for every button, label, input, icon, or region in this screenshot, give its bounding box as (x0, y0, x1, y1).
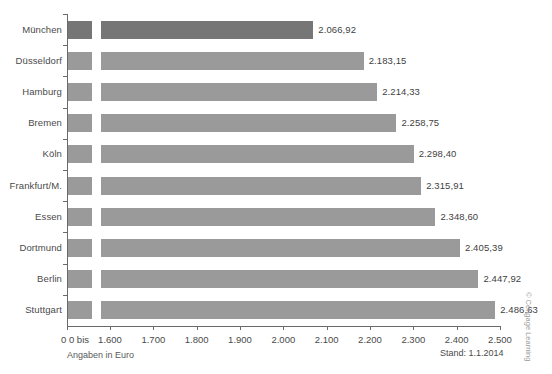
bar-value-label: 2.447,92 (483, 270, 521, 288)
axis-break-mark (92, 82, 101, 102)
bar-value-label: 2.066,92 (318, 21, 356, 39)
bar (68, 270, 478, 288)
x-axis-tick (110, 326, 111, 330)
bar-value-label: 2.214,33 (382, 83, 420, 101)
x-axis-tick (283, 326, 284, 330)
bar (68, 239, 460, 257)
x-axis-tick-origin (67, 326, 68, 330)
bar (68, 52, 364, 70)
x-axis-tick (240, 326, 241, 330)
axis-break-mark (92, 300, 101, 320)
bar-chart: MünchenDüsseldorfHamburgBremenKölnFrankf… (0, 0, 552, 374)
category-label: Hamburg (0, 87, 62, 97)
category-label: Düsseldorf (0, 56, 62, 66)
bar (68, 208, 435, 226)
axis-break-mark (92, 269, 101, 289)
axis-break-mark (92, 144, 101, 164)
x-axis-tick (197, 326, 198, 330)
x-axis-tick (457, 326, 458, 330)
y-axis-tick (63, 295, 67, 296)
x-axis-origin-label: 0 0 bis (61, 334, 89, 345)
bar (68, 301, 495, 319)
y-axis-tick (63, 14, 67, 15)
category-label: Bremen (0, 118, 62, 128)
bar (68, 177, 421, 195)
y-axis-tick (63, 170, 67, 171)
y-axis-tick (63, 76, 67, 77)
x-axis-tick-label: 1.600 (98, 334, 122, 345)
bar-value-label: 2.315,91 (426, 177, 464, 195)
x-axis-tick (153, 326, 154, 330)
bar-value-label: 2.348,60 (440, 208, 478, 226)
category-label: Köln (0, 149, 62, 159)
bar-value-label: 2.258,75 (401, 114, 439, 132)
x-axis-tick (327, 326, 328, 330)
category-label: Frankfurt/M. (0, 181, 62, 191)
bar (68, 21, 313, 39)
x-axis-tick (370, 326, 371, 330)
x-axis-tick-label: 2.100 (315, 334, 339, 345)
axis-break-mark (92, 20, 101, 40)
bar-value-label: 2.183,15 (369, 52, 407, 70)
axis-break-mark (92, 238, 101, 258)
category-label: Stuttgart (0, 305, 62, 315)
bar-value-label: 2.298,40 (419, 145, 457, 163)
axis-break-mark (92, 176, 101, 196)
axis-break-mark (92, 51, 101, 71)
x-axis-tick (500, 326, 501, 330)
units-note: Angaben in Euro (67, 350, 134, 360)
x-axis-tick-label: 2.200 (358, 334, 382, 345)
bar (68, 83, 377, 101)
category-label: Berlin (0, 274, 62, 284)
y-axis-tick (63, 232, 67, 233)
bar (68, 145, 414, 163)
x-axis-tick-label: 1.700 (141, 334, 165, 345)
category-label: Dortmund (0, 243, 62, 253)
x-axis-tick-label: 2.500 (488, 334, 512, 345)
as-of-note: Stand: 1.1.2014 (440, 348, 504, 358)
plot-area: 2.066,922.183,152.214,332.258,752.298,40… (67, 14, 537, 326)
x-axis-tick-label: 1.800 (185, 334, 209, 345)
y-axis-tick (63, 45, 67, 46)
category-axis-labels: MünchenDüsseldorfHamburgBremenKölnFrankf… (0, 0, 62, 374)
axis-break-mark (92, 113, 101, 133)
x-axis-tick (413, 326, 414, 330)
axis-break-mark (92, 207, 101, 227)
copyright-credit: © Cengage Learning (524, 292, 533, 361)
y-axis-tick (63, 201, 67, 202)
y-axis-tick (63, 108, 67, 109)
y-axis-tick (63, 139, 67, 140)
category-label: München (0, 25, 62, 35)
bar-value-label: 2.405,39 (465, 239, 503, 257)
x-axis-tick-label: 2.000 (271, 334, 295, 345)
x-axis-tick-label: 1.900 (228, 334, 252, 345)
x-axis-tick-label: 2.300 (401, 334, 425, 345)
category-label: Essen (0, 212, 62, 222)
y-axis-tick (63, 264, 67, 265)
bar (68, 114, 396, 132)
x-axis-tick-label: 2.400 (445, 334, 469, 345)
